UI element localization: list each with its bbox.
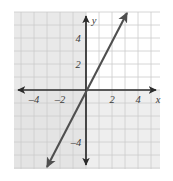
x-tick-label-pos4: 4 <box>135 94 141 105</box>
y-tick-label-neg4: –4 <box>70 137 82 148</box>
coordinate-graph-figure: –4 –2 2 4 4 2 –4 x y <box>0 0 173 181</box>
x-tick-label-pos2: 2 <box>109 94 115 105</box>
x-tick-label-neg4: –4 <box>28 94 40 105</box>
shaded-region-overlap <box>14 90 86 169</box>
y-tick-label-pos2: 2 <box>75 59 81 70</box>
x-axis-label: x <box>155 94 161 105</box>
y-tick-label-pos4: 4 <box>75 33 81 44</box>
x-tick-label-neg2: –2 <box>54 94 66 105</box>
y-axis-label: y <box>91 15 97 26</box>
coordinate-plane-chart: –4 –2 2 4 4 2 –4 x y <box>0 0 173 181</box>
